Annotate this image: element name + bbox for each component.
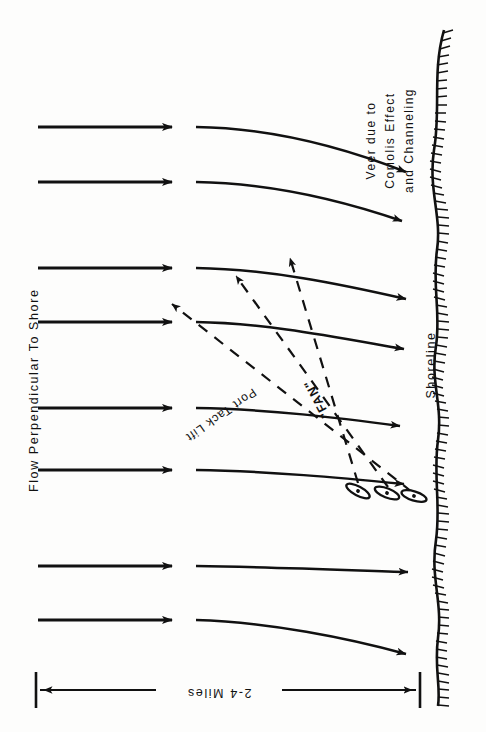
- fan-line: [172, 304, 412, 492]
- label-veer-line-3: and Channeling: [400, 51, 419, 231]
- boat: [400, 488, 428, 504]
- boat: [344, 481, 371, 501]
- diagram-canvas: Flow Perpendicular To Shore Veer due to …: [0, 0, 486, 732]
- label-veer-note: Veer due to Coriolis Effect and Channeli…: [362, 51, 419, 231]
- label-veer-line-2: Coriolis Effect: [381, 51, 400, 231]
- label-veer-line-1: Veer due to: [362, 51, 381, 231]
- label-flow-perpendicular-to-shore: Flow Perpendicular To Shore: [27, 292, 41, 492]
- veer-curve: [196, 268, 406, 299]
- label-shoreline: Shoreline: [424, 305, 438, 425]
- straight-flow-arrows: [38, 127, 172, 620]
- label-scale-miles: 2-4 Miles: [159, 686, 279, 700]
- veer-curve: [196, 620, 406, 654]
- veer-curve: [196, 566, 408, 572]
- veer-curve: [196, 322, 404, 349]
- veer-curve: [196, 470, 404, 484]
